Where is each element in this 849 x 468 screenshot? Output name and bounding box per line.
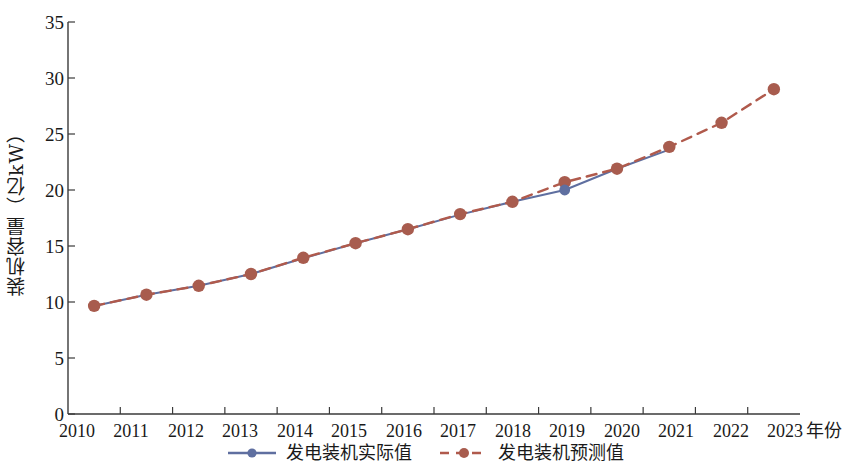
data-point-predicted <box>88 300 100 312</box>
data-point-predicted <box>663 141 675 153</box>
data-point-predicted <box>454 208 466 220</box>
chart-legend: 发电装机实际值 发电装机预测值 <box>0 443 849 463</box>
axis-lines <box>68 22 800 414</box>
legend-label-predicted: 发电装机预测值 <box>498 443 624 463</box>
data-series-layer <box>88 83 780 312</box>
x-tick-marks <box>120 407 747 414</box>
legend-item-predicted: 发电装机预测值 <box>438 443 624 463</box>
series-line-actual <box>94 150 669 306</box>
legend-swatch-actual <box>226 446 278 460</box>
legend-label-actual: 发电装机实际值 <box>286 443 412 463</box>
data-point-predicted <box>506 196 518 208</box>
plot-area <box>0 0 849 468</box>
data-point-actual <box>559 185 570 196</box>
data-point-predicted <box>715 117 727 129</box>
legend-item-actual: 发电装机实际值 <box>226 443 412 463</box>
y-tick-marks <box>68 22 75 414</box>
data-point-predicted <box>768 83 780 95</box>
data-point-predicted <box>193 280 205 292</box>
chart-figure: 装机容量（亿kW） 35 30 25 20 15 10 5 0 2010 201… <box>0 0 849 468</box>
data-point-predicted <box>349 237 361 249</box>
legend-swatch-predicted <box>438 446 490 460</box>
data-point-predicted <box>402 223 414 235</box>
series-line-predicted <box>94 89 774 306</box>
data-point-predicted <box>245 268 257 280</box>
data-point-predicted <box>297 252 309 264</box>
data-point-predicted <box>611 163 623 175</box>
data-point-predicted <box>140 289 152 301</box>
